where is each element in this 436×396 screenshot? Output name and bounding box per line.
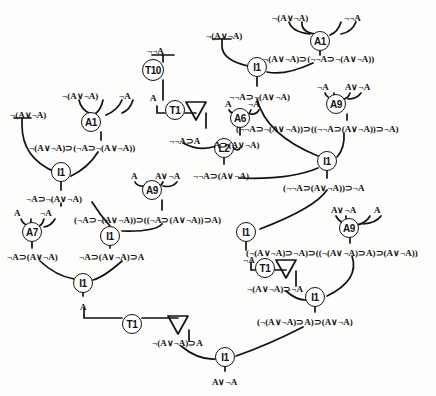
formula-f_T10_p: ¬¬A xyxy=(147,47,164,56)
discharge-triangle-icon xyxy=(167,315,189,339)
formula-f_I1L1_c: ¬A⊃¬(A∨¬A) xyxy=(26,195,82,204)
formula-f_T1c_c: ¬(A∨¬A)⊃A xyxy=(152,339,203,348)
formula-f_A9B_p2: A xyxy=(374,206,381,215)
rule-node-i1f: I1 xyxy=(215,347,235,367)
formula-f_T1a_c: ¬¬A⊃A xyxy=(169,137,200,146)
formula-f_A1L_p2: ¬A xyxy=(119,92,131,101)
rule-node-t1a: T1 xyxy=(165,100,185,120)
formula-f_A9L_c: (¬A⊃¬(A∨¬A))⊃((¬A⊃(A∨¬A))⊃A) xyxy=(74,216,221,225)
rule-node-t10: T10 xyxy=(142,59,164,81)
formula-f_I1R2_c: (¬(A∨¬A)⊃A)⊃(A∨¬A) xyxy=(257,318,353,327)
formula-f_A9L_p1: A xyxy=(131,172,138,181)
formula-f_I1TR_c: ¬¬A⊃¬(A∨¬A) xyxy=(229,93,290,102)
rule-node-i1l3: I1 xyxy=(73,273,93,293)
formula-f_T10_c: A xyxy=(150,94,157,103)
rule-node-a7: A7 xyxy=(22,222,42,242)
rule-node-i1r1: I1 xyxy=(236,222,256,242)
formula-f_top_R_assump: ¬(A∨¬A) xyxy=(206,32,242,41)
formula-f_I1M_c: (¬¬A⊃(A∨¬A))⊃¬A xyxy=(283,184,365,193)
formula-f_top_L_assump: ¬(A∨¬A) xyxy=(10,111,46,120)
formula-f_A7_p2: ¬A xyxy=(40,209,52,218)
rule-node-a9b: A9 xyxy=(339,218,359,238)
formula-f_A9R_p2: A∨¬A xyxy=(345,83,370,92)
rule-node-i1l1: I1 xyxy=(51,162,71,182)
rule-node-a1l: A1 xyxy=(81,112,101,132)
formula-f_A1R_p1: ¬(A∨¬A) xyxy=(272,14,308,23)
formula-f_A1R_c: ¬(A∨¬A)⊃(¬¬A⊃¬(A∨¬A)) xyxy=(263,55,374,64)
formula-f_L2_c: ¬¬A⊃(A∨¬A) xyxy=(193,172,249,181)
formula-f_I1R1_c: ¬A xyxy=(243,256,255,265)
formula-f_I1L3_c: A xyxy=(80,303,87,312)
rule-node-a9r: A9 xyxy=(326,94,346,114)
formula-f_A6_c: A⊃(A∨¬A) xyxy=(214,141,260,150)
formula-f_A9L_p2: A∨¬A xyxy=(155,172,180,181)
formula-f_A9R_c: (¬¬A⊃¬(A∨¬A))⊃((¬¬A⊃(A∨¬A))⊃¬A) xyxy=(236,125,399,134)
formula-f_T1b_c: ¬(A∨¬A)⊃¬A xyxy=(247,285,303,294)
proof-tree-diagram: T10T1A1A1I1A6A9L2I1A9I1A7I1I1A9I1T1T1I1I… xyxy=(0,0,436,396)
formula-f_A1R_p2: ¬¬A xyxy=(344,14,361,23)
rule-node-i1m: I1 xyxy=(317,151,337,171)
formula-f_I1L2_c: ¬A⊃(A∨¬A)⊃A xyxy=(79,253,144,262)
formula-f_A1L_p1: ¬(A∨¬A) xyxy=(62,92,98,101)
rule-node-t1c: T1 xyxy=(122,314,142,334)
rule-node-i1r2: I1 xyxy=(305,287,325,307)
formula-f_A7_c: ¬A⊃(A∨¬A) xyxy=(7,253,58,262)
formula-f_A9R_p1: ¬A xyxy=(317,83,329,92)
discharge-triangle-icon xyxy=(185,101,207,125)
formula-f_A1L_c: ¬(A∨¬A)⊃(¬A⊃¬(A∨¬A)) xyxy=(29,144,135,153)
formula-f_final: A∨¬A xyxy=(212,378,237,387)
discharge-triangle-icon xyxy=(275,259,297,283)
rule-node-a9l: A9 xyxy=(142,180,162,200)
rule-node-i1l2: I1 xyxy=(100,226,120,246)
formula-f_A7_p1: A xyxy=(14,209,21,218)
formula-f_A9B_c: (¬(A∨¬A)⊃¬A)⊃((¬(A∨¬A)⊃A)⊃(A∨¬A)) xyxy=(246,249,418,258)
rule-node-a1r: A1 xyxy=(310,31,330,51)
rule-node-t1b: T1 xyxy=(255,258,275,278)
formula-f_A9B_p1: A∨¬A xyxy=(331,206,356,215)
